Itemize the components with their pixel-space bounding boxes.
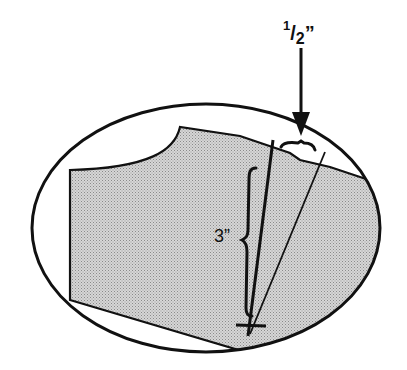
half-inch-label: 1/2”: [283, 20, 315, 45]
three-inch-label: 3”: [214, 226, 230, 247]
pattern-diagram: [0, 0, 407, 370]
crossbar: [236, 325, 266, 326]
half-inch-brace: [281, 141, 315, 150]
